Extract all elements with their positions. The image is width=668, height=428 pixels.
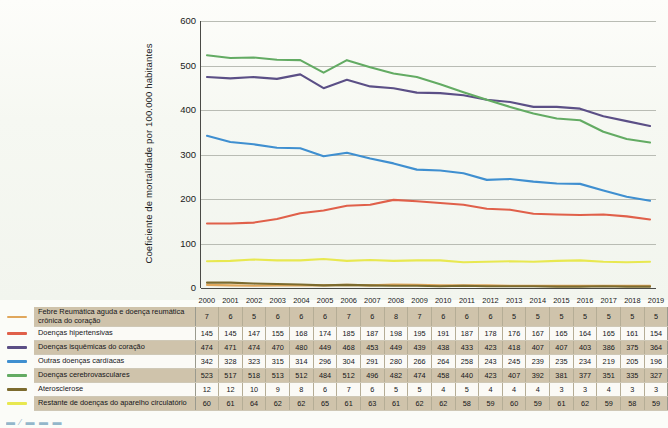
cell-2007: 6: [360, 307, 384, 327]
year-header-2003: 2003: [266, 292, 290, 307]
cell-2002: 5: [242, 307, 266, 327]
cell-2003: 6: [266, 307, 290, 327]
cell-2018: 58: [621, 397, 645, 411]
cell-2014: 167: [526, 327, 550, 341]
cell-2011: 187: [455, 327, 479, 341]
cell-2015: 235: [550, 355, 574, 369]
cell-2015: 407: [550, 341, 574, 355]
year-header-2005: 2005: [313, 292, 337, 307]
cell-2017: 4: [597, 383, 621, 397]
cell-2013: 245: [502, 355, 526, 369]
y-tick-label-300: 300: [162, 150, 196, 160]
cell-2005: 6: [313, 307, 337, 327]
series-lines: [201, 21, 656, 288]
cell-2013: 4: [502, 383, 526, 397]
cell-2004: 6: [290, 307, 314, 327]
cell-2009: 474: [408, 369, 432, 383]
cell-2006: 7: [337, 307, 361, 327]
cell-2001: 471: [219, 341, 243, 355]
cell-2017: 386: [597, 341, 621, 355]
cell-2005: 296: [313, 355, 337, 369]
cell-2008: 61: [384, 397, 408, 411]
cell-2001: 6: [219, 307, 243, 327]
series-label: Aterosclerose: [34, 383, 195, 397]
cell-2003: 62: [266, 397, 290, 411]
cell-2009: 5: [408, 383, 432, 397]
series-label: Outras doenças cardíacas: [34, 355, 195, 369]
cell-2010: 4: [431, 383, 455, 397]
cell-2000: 12: [195, 383, 219, 397]
cell-2008: 8: [384, 307, 408, 327]
cell-2007: 6: [360, 383, 384, 397]
table-row: Outras doenças cardíacas3423283233153142…: [34, 355, 668, 369]
cell-2000: 60: [195, 397, 219, 411]
figure-caption: ▬ ⁄ ▬ ▬ ▬: [6, 417, 666, 428]
series-line-4: [207, 55, 650, 142]
cell-2007: 291: [360, 355, 384, 369]
cell-2000: 342: [195, 355, 219, 369]
table-row: Febre Reumática aguda e doença reumática…: [34, 307, 668, 327]
table-body: Febre Reumática aguda e doença reumática…: [34, 307, 668, 411]
cell-2015: 165: [550, 327, 574, 341]
cell-2018: 335: [621, 369, 645, 383]
cell-2017: 165: [597, 327, 621, 341]
cell-2005: 449: [313, 341, 337, 355]
cell-2018: 5: [621, 307, 645, 327]
cell-2015: 3: [550, 383, 574, 397]
cell-2002: 323: [242, 355, 266, 369]
year-header-2014: 2014: [526, 292, 550, 307]
cell-2005: 6: [313, 383, 337, 397]
cell-2000: 474: [195, 341, 219, 355]
cell-2016: 377: [573, 369, 597, 383]
year-header-2017: 2017: [597, 292, 621, 307]
cell-2004: 168: [290, 327, 314, 341]
y-tick-label-600: 600: [162, 16, 196, 26]
cell-2006: 468: [337, 341, 361, 355]
legend-data-table-region: 2000200120022003200420052006200720082009…: [0, 292, 668, 412]
cell-2009: 7: [408, 307, 432, 327]
cell-2017: 59: [597, 397, 621, 411]
plot-area: [200, 21, 656, 288]
year-header-2008: 2008: [384, 292, 408, 307]
cell-2011: 6: [455, 307, 479, 327]
cell-2014: 239: [526, 355, 550, 369]
cell-2002: 64: [242, 397, 266, 411]
cell-2019: 154: [644, 327, 668, 341]
figure-page: Coeficiente de mortalidade por 100.000 h…: [0, 0, 668, 428]
cell-2006: 61: [337, 397, 361, 411]
cell-2016: 3: [573, 383, 597, 397]
table-header-row: 2000200120022003200420052006200720082009…: [34, 292, 668, 307]
y-axis-title: Coeficiente de mortalidade por 100.000 h…: [140, 22, 156, 288]
cell-2007: 453: [360, 341, 384, 355]
cell-2007: 187: [360, 327, 384, 341]
cell-2003: 315: [266, 355, 290, 369]
line-chart: Coeficiente de mortalidade por 100.000 h…: [0, 0, 668, 300]
series-line-1: [207, 200, 650, 224]
series-label: Febre Reumática aguda e doença reumática…: [34, 307, 195, 327]
cell-2011: 440: [455, 369, 479, 383]
cell-2000: 523: [195, 369, 219, 383]
cell-2009: 195: [408, 327, 432, 341]
cell-2015: 61: [550, 397, 574, 411]
series-label: Restante de doenças do aparelho circulat…: [34, 397, 195, 411]
y-tick-label-500: 500: [162, 61, 196, 71]
cell-2001: 328: [219, 355, 243, 369]
cell-2010: 458: [431, 369, 455, 383]
cell-2012: 6: [479, 307, 503, 327]
cell-2016: 164: [573, 327, 597, 341]
cell-2015: 381: [550, 369, 574, 383]
cell-2010: 264: [431, 355, 455, 369]
year-header-2004: 2004: [290, 292, 314, 307]
year-header-2016: 2016: [573, 292, 597, 307]
cell-2007: 496: [360, 369, 384, 383]
year-header-2007: 2007: [360, 292, 384, 307]
cell-2002: 518: [242, 369, 266, 383]
cell-2006: 304: [337, 355, 361, 369]
cell-2011: 5: [455, 383, 479, 397]
cell-2004: 62: [290, 397, 314, 411]
cell-2003: 470: [266, 341, 290, 355]
cell-2006: 512: [337, 369, 361, 383]
cell-2002: 10: [242, 383, 266, 397]
cell-2001: 517: [219, 369, 243, 383]
series-line-3: [207, 136, 650, 201]
